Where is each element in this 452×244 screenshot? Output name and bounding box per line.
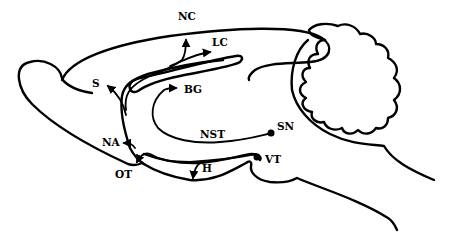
fornix-outline [121,60,223,164]
pathway-hypothalamus [193,163,200,178]
brain-pathway-diagram: NC LC S BG NST SN NA OT H VT [0,0,452,244]
label-ot: OT [115,168,132,180]
label-sn: SN [277,120,295,132]
label-nc: NC [178,10,196,22]
label-vt: VT [264,153,281,165]
ventral-outline [142,162,397,230]
vt-nucleus-dot [254,154,261,161]
label-bg: BG [184,83,202,95]
label-h: H [202,162,212,174]
sn-nucleus-dot [268,130,275,137]
label-s: S [92,77,100,89]
label-lc: LC [212,36,228,48]
cerebellum-outline [300,24,400,134]
frontal-lobe-outline [19,61,142,165]
label-nst: NST [200,128,225,140]
label-na: NA [102,136,121,148]
